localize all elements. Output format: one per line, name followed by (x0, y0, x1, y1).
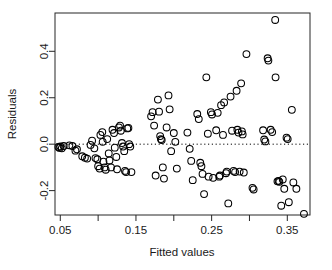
y-axis-title: Residuals (6, 89, 18, 140)
x-axis-title: Fitted values (149, 246, 214, 258)
scatter-plot-canvas: 0.050.150.250.35 -0.20.00.20.4 Fitted va… (0, 0, 332, 270)
residual-plot: 0.050.150.250.35 -0.20.00.20.4 Fitted va… (0, 0, 332, 270)
x-axis-tick-label: 0.05 (49, 224, 71, 236)
y-axis-tick-label: 0.4 (38, 43, 50, 60)
x-axis-tick-label: 0.35 (276, 224, 298, 236)
y-axis-tick-label: 0.0 (38, 136, 50, 152)
x-axis-tick-label: 0.25 (200, 224, 222, 236)
y-axis-tick-label: -0.2 (38, 181, 50, 201)
x-axis-tick-label: 0.15 (125, 224, 147, 236)
y-axis-tick-label: 0.2 (38, 90, 50, 106)
